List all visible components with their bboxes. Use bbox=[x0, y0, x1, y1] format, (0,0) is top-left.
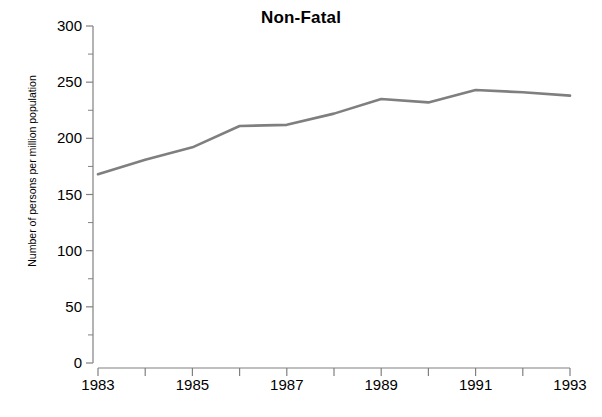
axes bbox=[86, 26, 570, 376]
data-series bbox=[98, 90, 570, 174]
data-line-non-fatal bbox=[98, 90, 570, 174]
chart-figure: Non-Fatal Number of persons per million … bbox=[0, 0, 602, 417]
plot-area bbox=[0, 0, 602, 417]
